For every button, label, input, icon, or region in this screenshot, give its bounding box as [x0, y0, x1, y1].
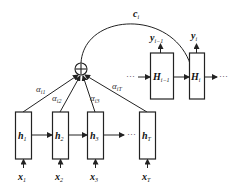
- decoder-state-prev: Hi−1: [151, 53, 174, 99]
- weight-label-T: αiT: [112, 81, 122, 92]
- input-label-T: xT: [141, 171, 151, 183]
- decoder-state-current: Hi: [190, 53, 205, 99]
- encoder-ellipsis: ···: [127, 129, 136, 139]
- attention-diagram: ci αi1 αi2 αi3 αiT h1 h2 h3 hT ··· x1 x2: [0, 0, 237, 196]
- encoder-state-2: h2: [53, 112, 69, 159]
- input-label-2: x2: [54, 171, 63, 183]
- context-arc: [81, 24, 193, 75]
- weight-label-1: αi1: [36, 84, 45, 95]
- weight-label-2: αi2: [52, 93, 61, 104]
- encoder-state-3: h3: [88, 112, 104, 159]
- weight-line-2: [60, 76, 80, 112]
- output-label-prev: yi−1: [149, 32, 163, 44]
- weight-label-3: αi3: [90, 93, 99, 104]
- input-label-1: x1: [17, 171, 26, 183]
- input-label-3: x3: [89, 171, 98, 183]
- encoder-state-T: hT: [140, 112, 156, 159]
- context-label: ci: [133, 8, 139, 20]
- decoder-ellipsis-right: ···: [219, 71, 228, 81]
- output-label-current: yi: [190, 30, 197, 42]
- decoder-ellipsis-left: ···: [126, 71, 135, 81]
- sum-node: [75, 63, 87, 75]
- encoder-state-1: h1: [16, 112, 32, 159]
